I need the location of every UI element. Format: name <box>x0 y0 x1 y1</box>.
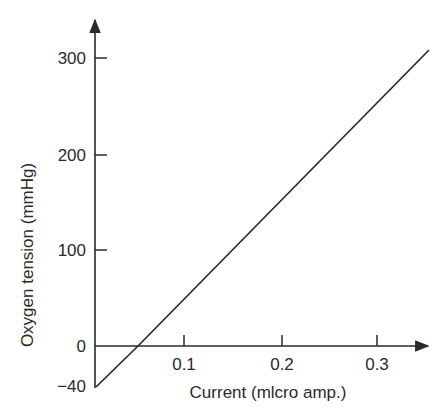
y-axis-label: Oxygen tension (mmHg) <box>18 163 37 347</box>
x-axis-label: Current (mlcro amp.) <box>190 383 347 402</box>
data-line <box>96 50 429 387</box>
chart-canvas: 300 200 100 0 −40 0.1 0.2 0.3 Current (m… <box>0 0 437 417</box>
y-tick-label: 300 <box>58 49 86 68</box>
y-tick-label: 100 <box>58 241 86 260</box>
y-tick-label: 200 <box>58 146 86 165</box>
y-ticks <box>95 58 107 250</box>
x-tick-label: 0.2 <box>270 355 294 374</box>
x-ticks <box>184 335 377 346</box>
y-tick-label: −40 <box>57 377 86 396</box>
x-tick-label: 0.3 <box>365 355 389 374</box>
x-tick-label: 0.1 <box>172 355 196 374</box>
y-tick-label: 0 <box>77 337 86 356</box>
